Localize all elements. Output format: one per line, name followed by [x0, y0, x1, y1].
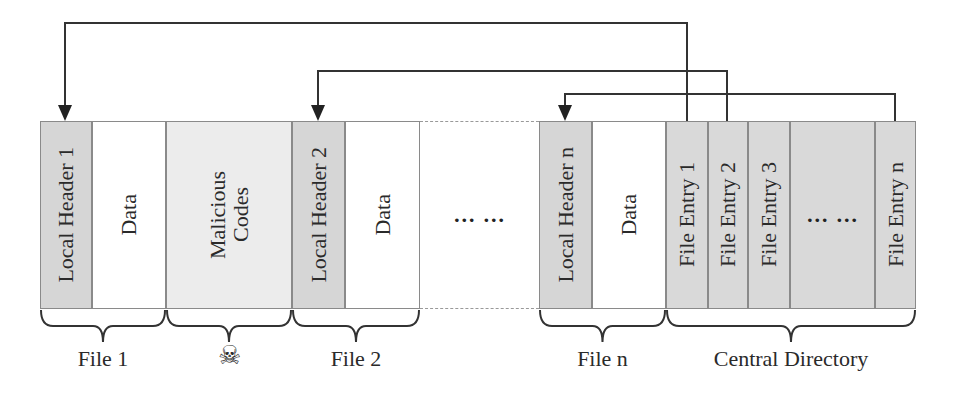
segment-label: Data: [617, 194, 640, 236]
arrow-file-entry-2-to-local-header-2: [318, 71, 727, 121]
segment-label: Data: [117, 194, 140, 236]
arrow-file-entry-n-to-local-header-n: [565, 94, 895, 121]
segment-label: MaliciousCodes: [206, 171, 252, 259]
segment-data-n: Data: [592, 121, 666, 309]
segment-data-2: Data: [345, 121, 420, 309]
group-label-file-2: File 2: [331, 346, 382, 372]
segment-label: File Entry 3: [757, 162, 780, 267]
segment-local-header-n: Local Header n: [539, 121, 592, 309]
segment-gap: … …: [420, 121, 539, 309]
group-label-file-n: File n: [577, 346, 628, 372]
ellipsis-dots: … …: [453, 202, 506, 228]
segment-data-1: Data: [92, 121, 166, 309]
brace-malicious: [167, 310, 291, 342]
skull-icon: ☠: [218, 340, 241, 371]
arrowhead-icon: [311, 105, 325, 121]
segment-file-entry-3: File Entry 3: [748, 121, 790, 309]
brace-file-1: [41, 310, 165, 342]
segment-file-entry-2: File Entry 2: [708, 121, 748, 309]
segment-label: File Entry 1: [675, 162, 698, 267]
segment-label: File Entry 2: [716, 162, 739, 267]
segment-file-entry-dots: … …: [790, 121, 875, 309]
segment-label: Local Header 2: [307, 147, 330, 283]
brace-central-directory: [667, 310, 915, 342]
arrowhead-icon: [58, 105, 72, 121]
segment-malicious-codes: MaliciousCodes: [166, 121, 292, 309]
segment-local-header-1: Local Header 1: [40, 121, 92, 309]
arrowhead-icon: [558, 105, 572, 121]
segment-file-entry-n: File Entry n: [875, 121, 916, 309]
group-label-central-directory: Central Directory: [714, 346, 869, 372]
segment-label: File Entry n: [884, 162, 907, 267]
segment-label: Data: [371, 194, 394, 236]
segment-file-entry-1: File Entry 1: [666, 121, 708, 309]
segment-label: Local Header 1: [54, 147, 77, 283]
brace-file-2: [293, 310, 419, 342]
group-label-file-1: File 1: [78, 346, 129, 372]
ellipsis-dots: … …: [806, 202, 859, 228]
segment-label: Local Header n: [554, 147, 577, 283]
brace-file-n: [540, 310, 665, 342]
zip-structure-diagram: Local Header 1DataMaliciousCodesLocal He…: [0, 0, 957, 394]
segment-local-header-2: Local Header 2: [292, 121, 345, 309]
